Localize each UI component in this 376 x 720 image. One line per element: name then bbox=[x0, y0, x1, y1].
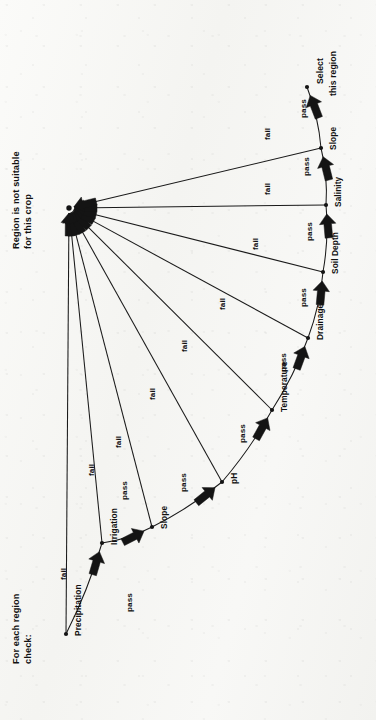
stage-label-slope-2[interactable]: Slope bbox=[329, 127, 338, 150]
stage-label-irrigation[interactable]: Irrigation bbox=[110, 508, 119, 545]
accept-note-line-1: Select bbox=[316, 58, 325, 84]
fail-label-drainage: fail bbox=[219, 298, 228, 310]
pass-arrowhead-drainage bbox=[293, 346, 309, 370]
stage-label-salinity[interactable]: Salinity bbox=[334, 177, 343, 207]
pass-label-soil-depth: pass bbox=[306, 222, 315, 241]
pass-label-slope-2: pass bbox=[300, 99, 309, 118]
pass-arrowhead-group bbox=[89, 95, 336, 575]
pass-arrowhead-irrigation bbox=[89, 552, 105, 576]
pass-arrowhead-temperature bbox=[253, 418, 270, 441]
fail-edge-temperature bbox=[73, 212, 272, 410]
pass-label-drainage: pass bbox=[300, 288, 309, 307]
fail-edge-drainage bbox=[73, 210, 308, 338]
fail-edge-salinity bbox=[74, 205, 326, 208]
fail-edge-slope-1 bbox=[70, 213, 152, 527]
node-dot-ph[interactable] bbox=[220, 480, 224, 484]
start-note-line-1: For each region bbox=[12, 594, 22, 664]
node-dot-precipitation[interactable] bbox=[64, 632, 68, 636]
fail-edge-soil-depth bbox=[74, 209, 323, 272]
reject-note-line-2: for this crop bbox=[24, 194, 34, 249]
pass-label-irrigation: pass bbox=[121, 481, 130, 500]
fail-edge-slope-2 bbox=[74, 148, 321, 207]
node-dot-salinity[interactable] bbox=[324, 203, 328, 207]
fail-label-slope-2: fail bbox=[264, 128, 273, 140]
accept-note-line-2: this region bbox=[329, 51, 338, 96]
stage-label-ph[interactable]: pH bbox=[230, 473, 239, 484]
reject-note-line-1: Region is not suitable bbox=[12, 151, 22, 249]
pass-arrowhead-slope-1 bbox=[121, 528, 144, 545]
fail-edge-ph bbox=[71, 212, 222, 482]
node-dot-temperature[interactable] bbox=[270, 408, 274, 412]
pass-arrowhead-ph bbox=[194, 488, 215, 506]
fail-label-ph: fail bbox=[149, 388, 158, 400]
stage-label-precipitation[interactable]: Precipitation bbox=[74, 584, 83, 636]
diagram-canvas: For each region check: Region is not sui… bbox=[0, 0, 376, 720]
pass-label-salinity: pass bbox=[303, 157, 312, 176]
node-dot-drainage[interactable] bbox=[306, 336, 310, 340]
pass-arrowhead-soil-depth bbox=[313, 281, 329, 305]
start-note-line-2: check: bbox=[24, 634, 34, 664]
fail-edge-irrigation bbox=[69, 213, 102, 543]
flowchart-svg bbox=[0, 0, 376, 720]
fail-label-salinity: fail bbox=[264, 183, 273, 195]
stage-label-drainage[interactable]: Drainage bbox=[316, 304, 325, 340]
pass-label-precipitation: pass bbox=[126, 593, 135, 612]
fail-label-irrigation: fail bbox=[88, 464, 97, 476]
node-dot-irrigation[interactable] bbox=[100, 541, 104, 545]
stage-label-soil-depth[interactable]: Soil Depth bbox=[331, 232, 340, 274]
node-dot-accept[interactable] bbox=[305, 85, 309, 89]
fail-label-precipitation: fail bbox=[60, 568, 69, 580]
fail-label-slope-1: fail bbox=[115, 436, 124, 448]
pass-label-temperature: pass bbox=[280, 353, 289, 372]
node-dot-slope-2[interactable] bbox=[319, 146, 323, 150]
node-dot-slope-1[interactable] bbox=[150, 525, 154, 529]
fail-label-temperature: fail bbox=[181, 340, 190, 352]
node-dot-reject[interactable] bbox=[66, 205, 71, 210]
stage-label-slope-1[interactable]: Slope bbox=[160, 506, 169, 529]
pass-label-ph: pass bbox=[239, 424, 248, 443]
fail-label-soil-depth: fail bbox=[252, 238, 261, 250]
pass-arrowhead-slope-2 bbox=[318, 157, 334, 181]
node-dot-soil-depth[interactable] bbox=[321, 270, 325, 274]
pass-label-slope-1: pass bbox=[180, 473, 189, 492]
